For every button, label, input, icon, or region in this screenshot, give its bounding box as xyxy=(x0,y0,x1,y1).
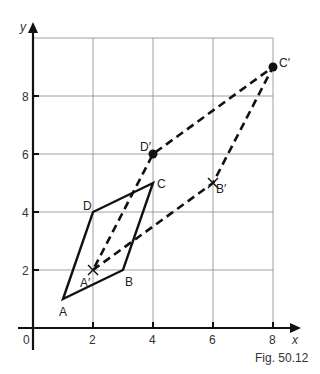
label-b-prime: B′ xyxy=(216,182,227,196)
x-tick-2: 2 xyxy=(89,333,96,347)
y-tick-6: 6 xyxy=(22,148,29,162)
label-b: B xyxy=(125,275,133,289)
c-prime-dot-icon xyxy=(269,63,278,72)
label-d: D xyxy=(83,199,92,213)
figure-canvas: 2 4 6 8 2 4 6 8 0 y x A B C D A′ B′ C′ D… xyxy=(0,0,320,374)
figure-caption: Fig. 50.12 xyxy=(255,351,309,365)
x-axis-label: x xyxy=(291,333,299,347)
x-tick-6: 6 xyxy=(209,333,216,347)
label-a: A xyxy=(59,305,67,319)
y-tick-4: 4 xyxy=(22,206,29,220)
y-tick-2: 2 xyxy=(22,264,29,278)
label-d-prime: D′ xyxy=(140,140,152,154)
x-tick-4: 4 xyxy=(149,333,156,347)
x-axis-arrow-icon xyxy=(290,323,301,333)
label-c: C xyxy=(157,177,166,191)
y-axis-label: y xyxy=(19,20,27,34)
label-a-prime: A′ xyxy=(80,276,91,290)
origin-label: 0 xyxy=(23,333,30,347)
axes xyxy=(18,30,292,350)
y-axis-arrow-icon xyxy=(28,22,38,33)
shape-abcd-prime xyxy=(93,67,273,270)
x-tick-8: 8 xyxy=(269,333,276,347)
y-tick-8: 8 xyxy=(22,90,29,104)
label-c-prime: C′ xyxy=(279,56,291,70)
